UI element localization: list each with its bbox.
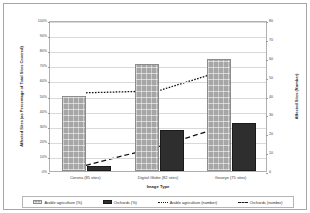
legend-label-orchards-percent: Orchards (%)	[114, 200, 137, 205]
y-axis-left-tick-label: 20%	[40, 141, 47, 145]
y-axis-right-tick	[266, 22, 268, 23]
y-axis-right-tick	[266, 60, 268, 61]
legend-label-arable-number: Arable agriculture (number)	[170, 200, 217, 205]
plot-area: 0%10%20%30%40%50%60%70%80%90%100%0102030…	[49, 21, 267, 172]
legend-line-orchards-number-icon	[238, 202, 248, 203]
bar-orchards-percent	[160, 130, 184, 171]
legend-item-orchards-number: Orchards (number)	[238, 200, 283, 205]
y-axis-right-tick-label: 20	[269, 133, 273, 137]
y-axis-left-tick	[48, 128, 50, 129]
y-axis-right-tick-label: 80	[269, 20, 273, 24]
legend-line-arable-number-icon	[158, 202, 168, 203]
legend-item-arable-number: Arable agriculture (number)	[158, 200, 217, 205]
y-axis-right-tick-label: 0	[269, 171, 271, 175]
bar-orchards-percent	[232, 123, 256, 171]
y-axis-left-tick-label: 10%	[40, 156, 47, 160]
y-axis-left-tick	[48, 37, 50, 38]
bar-orchards-percent	[87, 166, 111, 171]
gridline	[50, 37, 266, 38]
y-axis-right-tick	[266, 79, 268, 80]
y-axis-right-tick	[266, 98, 268, 99]
gridline	[50, 22, 266, 23]
y-axis-left-tick	[48, 113, 50, 114]
y-axis-right-tick-label: 60	[269, 58, 273, 62]
y-axis-right-tick	[266, 173, 268, 174]
y-axis-right-tick-label: 70	[269, 39, 273, 43]
y-axis-right-tick	[266, 135, 268, 136]
x-axis-title: Image Type	[49, 184, 267, 189]
y-axis-left-tick-label: 0%	[42, 171, 47, 175]
y-axis-right-tick-label: 10	[269, 152, 273, 156]
legend-label-arable-percent: Arable agriculture (%)	[44, 200, 82, 205]
y-axis-right-tick-label: 50	[269, 77, 273, 81]
y-axis-left-tick	[48, 67, 50, 68]
y-axis-left-tick	[48, 82, 50, 83]
y-axis-left-tick	[48, 173, 50, 174]
y-axis-right-tick	[266, 154, 268, 155]
y-axis-left-tick	[48, 22, 50, 23]
y-axis-left-tick	[48, 158, 50, 159]
y-axis-left-tick	[48, 143, 50, 144]
bar-arable-percent	[135, 64, 159, 171]
x-axis-category-label: Corona (85 sites)	[70, 175, 101, 180]
legend-swatch-arable-percent-icon	[33, 200, 42, 204]
y-axis-left-tick-label: 80%	[40, 50, 47, 54]
legend-label-orchards-number: Orchards (number)	[250, 200, 283, 205]
y-axis-right-tick-label: 40	[269, 96, 273, 100]
legend-item-arable-pct: Arable agriculture (%)	[33, 200, 82, 205]
y-axis-right-title: Affected Sites (Number)	[291, 21, 301, 172]
y-axis-left-tick-label: 70%	[40, 66, 47, 70]
x-axis-category-label: Geoeye (75 sites)	[215, 175, 247, 180]
y-axis-left-tick-label: 100%	[38, 20, 47, 24]
y-axis-right-tick	[266, 116, 268, 117]
legend-item-orchards-pct: Orchards (%)	[103, 200, 137, 205]
bar-arable-percent	[207, 59, 231, 171]
y-axis-left-tick	[48, 98, 50, 99]
y-axis-left-title: Affected Sites (as Percentage of Total S…	[15, 21, 27, 172]
y-axis-right-tick	[266, 41, 268, 42]
y-axis-left-tick-label: 30%	[40, 126, 47, 130]
y-axis-left-tick-label: 40%	[40, 111, 47, 115]
bar-arable-percent	[62, 96, 86, 172]
gridline	[50, 52, 266, 53]
y-axis-left-tick-label: 60%	[40, 81, 47, 85]
x-axis-category-label: Digital Globe (82 sites)	[138, 175, 178, 180]
y-axis-left-tick-label: 90%	[40, 35, 47, 39]
chart-container: Affected Sites (as Percentage of Total S…	[3, 3, 307, 210]
y-axis-left-tick-label: 50%	[40, 96, 47, 100]
chart-legend: Arable agriculture (%) Orchards (%) Arab…	[22, 196, 294, 208]
y-axis-left-tick	[48, 52, 50, 53]
legend-swatch-orchards-percent-icon	[103, 200, 112, 204]
y-axis-right-tick-label: 30	[269, 115, 273, 119]
